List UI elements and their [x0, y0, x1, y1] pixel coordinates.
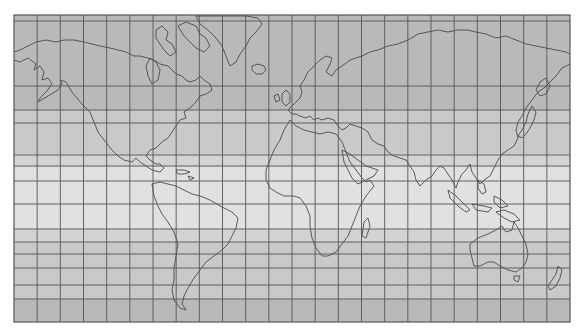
map-canvas — [0, 0, 580, 331]
world-map — [0, 0, 580, 331]
